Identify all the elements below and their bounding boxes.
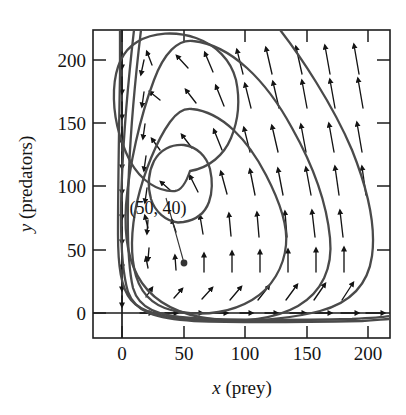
y-axis-title-rest: (predators)	[15, 136, 37, 224]
streamline-a	[128, 30, 390, 320]
x-tick-label-200: 200	[354, 343, 383, 364]
y-tick-label-150: 150	[58, 113, 87, 134]
y-tick-marks-right	[377, 60, 390, 250]
streamline-b	[121, 30, 390, 322]
axis-streamlines	[121, 30, 390, 322]
plot-svg: (50, 40) 200 150 100 50 0 0 50 100 150 2…	[0, 0, 406, 415]
phase-portrait-figure: (50, 40) 200 150 100 50 0 0 50 100 150 2…	[0, 0, 406, 415]
orbit-5	[118, 26, 373, 321]
y-axis-title-symbol: y	[15, 223, 36, 234]
x-axis-title: x (prey)	[211, 377, 272, 399]
y-tick-label-50: 50	[67, 240, 86, 261]
y-tick-label-200: 200	[58, 50, 87, 71]
equilibrium-point-dot	[181, 260, 188, 267]
x-tick-marks-top	[122, 30, 368, 42]
equilibrium-label: (50, 40)	[130, 198, 187, 219]
x-axis-title-rest: (prey)	[221, 377, 272, 399]
x-tick-label-100: 100	[231, 343, 260, 364]
x-tick-label-150: 150	[293, 343, 322, 364]
x-tick-marks	[122, 326, 368, 338]
x-tick-label-0: 0	[117, 343, 127, 364]
direction-field	[122, 45, 384, 313]
plot-frame	[93, 30, 390, 338]
orbit-group	[114, 26, 373, 321]
y-tick-marks	[93, 60, 106, 313]
y-tick-label-0: 0	[77, 303, 87, 324]
y-axis-title: y (predators)	[15, 136, 37, 235]
field-arrows-interior	[141, 45, 366, 300]
y-tick-label-100: 100	[58, 176, 87, 197]
orbit-4	[126, 41, 331, 321]
x-tick-label-50: 50	[175, 343, 194, 364]
